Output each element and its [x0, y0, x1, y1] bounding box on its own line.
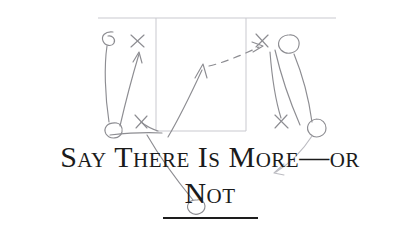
- chapter-heading-page: Say There Is More—or Not: [0, 0, 420, 234]
- cut-left-outside: [105, 46, 109, 122]
- page-title-line-2: Not: [0, 176, 420, 210]
- defender-mid-left-tail: [141, 122, 158, 131]
- offense-top-left-circle: [102, 32, 114, 46]
- pass-to-wing: [209, 47, 259, 66]
- cut-left-inner: [120, 54, 139, 126]
- court-lines: [98, 18, 336, 131]
- offense-bottom-right-circle: [308, 119, 326, 137]
- screen-right-inner: [270, 52, 281, 118]
- cut-baseline-to-elbow: [168, 70, 202, 137]
- offense-top-right-circle: [279, 35, 300, 53]
- heading-rule: [163, 217, 258, 219]
- page-title-line-1: Say There Is More—or: [0, 140, 420, 174]
- pass-to-wing-arrowhead: [252, 42, 263, 52]
- baseline-sweep: [110, 133, 162, 135]
- drive-right-corner: [294, 54, 312, 122]
